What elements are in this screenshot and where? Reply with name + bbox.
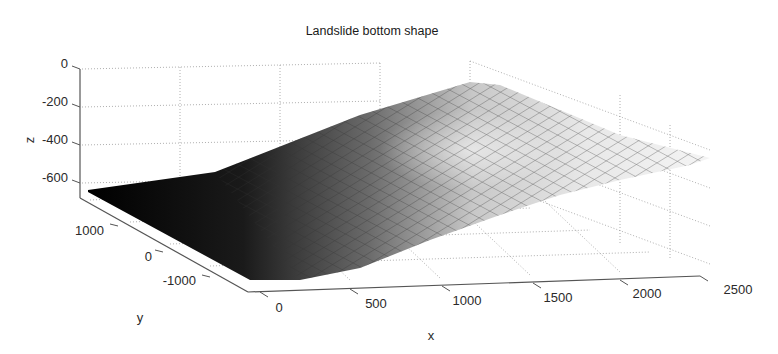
y-axis-label: y	[137, 310, 144, 325]
y-tick-label: 0	[145, 249, 152, 264]
surface-mesh	[88, 82, 710, 280]
z-tick-label: -600	[42, 170, 68, 185]
surface-plot: Landslide bottom shape	[0, 0, 778, 354]
x-tick-label: 2500	[724, 282, 753, 297]
z-tick-label: -200	[42, 94, 68, 109]
z-tick-label: -400	[42, 132, 68, 147]
z-tick-labels: 0 -200 -400 -600	[42, 56, 68, 185]
x-tick-label: 1000	[453, 293, 482, 308]
chart-title: Landslide bottom shape	[306, 24, 439, 38]
y-tick-label: 1000	[75, 223, 104, 238]
x-tick-label: 0	[275, 300, 282, 315]
x-tick-labels: 0 500 1000 1500 2000 2500	[275, 282, 752, 315]
z-tick-label: 0	[61, 56, 68, 71]
x-tick-label: 1500	[544, 290, 573, 305]
x-axis-label: x	[428, 328, 435, 343]
x-tick-label: 500	[365, 296, 387, 311]
y-tick-label: -1000	[163, 273, 196, 288]
x-tick-label: 2000	[633, 286, 662, 301]
z-axis-label: z	[22, 137, 37, 144]
